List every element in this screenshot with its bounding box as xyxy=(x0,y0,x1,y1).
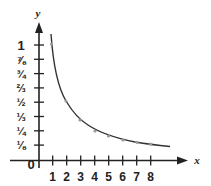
data-point xyxy=(64,99,67,102)
x-axis-label: x xyxy=(193,154,200,166)
y-tick-label: ¾ xyxy=(16,68,26,80)
data-points xyxy=(50,42,152,145)
origin-label: 0 xyxy=(27,157,34,172)
y-tick-labels: 1 ⅞ ¾ ⅔ ½ ⅓ ¼ ⅛ xyxy=(16,38,26,152)
data-point xyxy=(78,118,81,121)
y-tick-label: ¼ xyxy=(16,125,26,137)
y-tick-label: ⅔ xyxy=(16,82,25,94)
y-axis: y 1 ⅞ ¾ ⅔ ½ ⅓ ¼ ⅛ xyxy=(16,7,44,168)
y-tick-label: ½ xyxy=(16,96,25,108)
y-tick-label: 1 xyxy=(17,38,24,53)
x-tick-label: 1 xyxy=(49,170,56,184)
x-tick-label: 5 xyxy=(105,170,112,184)
x-tick-label: 7 xyxy=(133,170,140,184)
data-point xyxy=(93,129,96,132)
x-tick-label: 2 xyxy=(63,170,70,184)
x-axis-arrow-icon xyxy=(177,157,188,165)
x-tick-label: 6 xyxy=(119,170,126,184)
y-tick-label: ⅛ xyxy=(16,139,26,151)
chart: y 1 ⅞ ¾ ⅔ ½ ⅓ ¼ ⅛ x 0 xyxy=(0,0,211,186)
reciprocal-curve xyxy=(51,34,170,147)
x-tick-labels: 1 2 3 4 5 6 7 8 xyxy=(49,170,154,184)
y-axis-label: y xyxy=(34,7,41,19)
data-point xyxy=(50,42,53,45)
data-point xyxy=(149,143,152,146)
data-point xyxy=(135,141,138,144)
data-point xyxy=(107,134,110,137)
x-tick-label: 3 xyxy=(77,170,84,184)
y-tick-label: ⅞ xyxy=(16,54,26,66)
x-tick-label: 4 xyxy=(91,170,98,184)
y-tick-label: ⅓ xyxy=(16,111,25,123)
data-point xyxy=(121,138,124,141)
y-axis-arrow-icon xyxy=(35,22,43,33)
x-tick-label: 8 xyxy=(147,170,154,184)
